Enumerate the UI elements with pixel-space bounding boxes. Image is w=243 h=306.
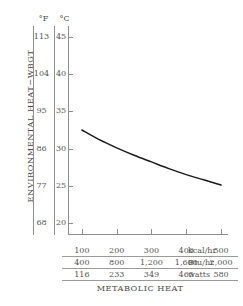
x-tick-mark — [117, 229, 118, 235]
unit-table-cell: 300 — [135, 246, 167, 255]
unit-table-cell: 100 — [66, 246, 98, 255]
wbgt-limit-curve — [82, 130, 221, 185]
unit-table-unit-label: Btu/hr — [188, 258, 238, 267]
unit-table-cell: 1,200 — [135, 258, 167, 267]
unit-table-cell: 116 — [66, 270, 98, 279]
x-axis-unit-table: 100200300400500kcal/hr4008001,2001,6002,… — [62, 245, 238, 281]
unit-table-row: 116233349465580watts — [62, 269, 238, 281]
chart-container: ENVIRONMENTAL HEAT−WBGT °F °C 1134510440… — [0, 0, 243, 306]
unit-table-unit-label: kcal/hr — [188, 246, 238, 255]
unit-table-unit-label: watts — [188, 270, 238, 279]
unit-table-cell: 400 — [66, 258, 98, 267]
x-tick-mark — [221, 229, 222, 235]
unit-table-row: 100200300400500kcal/hr — [62, 245, 238, 257]
x-axis-title: METABOLIC HEAT — [52, 283, 228, 293]
x-tick-mark — [186, 229, 187, 235]
x-tick-mark — [151, 229, 152, 235]
x-tick-mark — [82, 229, 83, 235]
unit-table-cell: 349 — [135, 270, 167, 279]
unit-table-cell: 233 — [101, 270, 133, 279]
unit-table-cell: 800 — [101, 258, 133, 267]
unit-table-row: 4008001,2001,6002,000Btu/hr — [62, 257, 238, 269]
unit-table-cell: 200 — [101, 246, 133, 255]
